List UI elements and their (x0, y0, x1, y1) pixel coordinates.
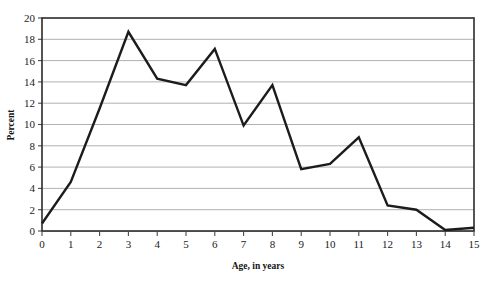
x-axis-tick-label: 6 (212, 238, 218, 250)
y-axis-tick-label: 20 (24, 12, 36, 24)
x-axis-tick-label: 3 (126, 238, 132, 250)
x-axis-tick-label: 7 (241, 238, 247, 250)
y-axis-tick-label: 4 (30, 182, 36, 194)
y-axis-tick-label: 0 (30, 225, 36, 237)
line-chart-canvas: 02468101214161820 0123456789101112131415… (0, 0, 493, 286)
y-axis-tick-label: 12 (24, 97, 35, 109)
y-axis-tick-label: 14 (24, 76, 36, 88)
y-axis-tick-label: 10 (24, 118, 36, 130)
x-axis-tick-label: 9 (298, 238, 304, 250)
y-axis-tick-label: 2 (30, 204, 36, 216)
x-axis-tick-label: 2 (97, 238, 103, 250)
y-axis-tick-labels-group: 02468101214161820 (24, 12, 36, 237)
x-axis-tick-label: 0 (39, 238, 45, 250)
y-axis-tick-label: 6 (30, 161, 36, 173)
x-axis-tick-label: 10 (325, 238, 337, 250)
x-axis-tick-label: 4 (154, 238, 160, 250)
x-axis-tick-label: 8 (270, 238, 276, 250)
x-axis-tick-labels-group: 0123456789101112131415 (39, 238, 480, 250)
y-axis-tick-label: 18 (24, 33, 36, 45)
y-axis-title: Percent (6, 109, 16, 141)
x-axis-tick-label: 12 (382, 238, 393, 250)
chart-figure: 02468101214161820 0123456789101112131415… (0, 0, 493, 286)
x-axis-tick-label: 11 (354, 238, 365, 250)
x-axis-tick-label: 15 (469, 238, 481, 250)
x-axis-title: Age, in years (232, 261, 285, 271)
x-axis-tick-label: 5 (183, 238, 189, 250)
x-axis-tick-label: 13 (411, 238, 423, 250)
x-axis-tick-label: 1 (68, 238, 74, 250)
y-axis-tick-label: 16 (24, 55, 36, 67)
y-axis-tick-label: 8 (30, 140, 36, 152)
x-axis-tick-label: 14 (440, 238, 452, 250)
